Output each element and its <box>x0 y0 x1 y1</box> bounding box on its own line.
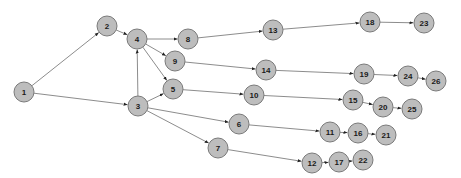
edge-14-to-19 <box>276 70 354 73</box>
edge-3-to-4 <box>137 50 138 97</box>
node-label: 16 <box>354 129 363 138</box>
node-label: 7 <box>216 144 221 153</box>
graph-node-26: 26 <box>426 71 446 91</box>
edge-9-to-14 <box>185 62 256 69</box>
node-label: 4 <box>135 35 140 44</box>
nodes-layer: 1234567891011121314151617181920212223242… <box>14 12 446 173</box>
graph-node-20: 20 <box>373 97 393 117</box>
node-label: 15 <box>349 96 358 105</box>
node-label: 14 <box>262 66 271 75</box>
edge-8-to-13 <box>198 31 263 38</box>
graph-node-24: 24 <box>398 66 418 86</box>
edge-1-to-3 <box>34 93 128 105</box>
node-label: 12 <box>308 159 317 168</box>
node-label: 25 <box>408 105 417 114</box>
node-label: 26 <box>432 77 441 86</box>
node-label: 5 <box>171 85 176 94</box>
node-label: 13 <box>269 26 278 35</box>
edge-3-to-6 <box>148 108 229 122</box>
node-label: 24 <box>404 72 413 81</box>
node-label: 23 <box>420 19 429 28</box>
graph-node-18: 18 <box>360 12 380 32</box>
edge-3-to-5 <box>147 94 164 102</box>
graph-node-6: 6 <box>229 114 249 134</box>
node-label: 3 <box>136 102 141 111</box>
graph-node-14: 14 <box>256 60 276 80</box>
node-label: 17 <box>335 158 344 167</box>
edge-20-to-25 <box>393 108 402 109</box>
node-label: 19 <box>360 70 369 79</box>
node-label: 11 <box>326 128 335 137</box>
node-label: 21 <box>382 131 391 140</box>
node-label: 8 <box>186 35 191 44</box>
edge-4-to-5 <box>143 47 167 80</box>
edge-18-to-23 <box>380 22 414 23</box>
edge-19-to-24 <box>374 75 398 76</box>
edge-5-to-10 <box>183 90 244 95</box>
edge-24-to-26 <box>418 78 426 79</box>
graph-canvas: 1234567891011121314151617181920212223242… <box>0 0 461 178</box>
graph-node-3: 3 <box>128 96 148 116</box>
graph-node-2: 2 <box>97 16 117 36</box>
edge-7-to-12 <box>228 150 302 162</box>
edge-6-to-11 <box>249 125 320 131</box>
graph-node-19: 19 <box>354 64 374 84</box>
node-label: 1 <box>22 88 27 97</box>
graph-node-4: 4 <box>127 29 147 49</box>
graph-node-13: 13 <box>263 20 283 40</box>
graph-node-9: 9 <box>165 51 185 71</box>
graph-node-15: 15 <box>343 90 363 110</box>
node-label: 10 <box>250 91 259 100</box>
node-label: 20 <box>379 103 388 112</box>
graph-node-22: 22 <box>353 150 373 170</box>
graph-node-11: 11 <box>320 122 340 142</box>
graph-node-25: 25 <box>402 99 422 119</box>
node-label: 18 <box>366 18 375 27</box>
edge-4-to-9 <box>146 44 166 56</box>
edge-15-to-20 <box>363 102 373 104</box>
graph-node-12: 12 <box>302 153 322 173</box>
graph-node-21: 21 <box>376 125 396 145</box>
edges-layer <box>32 22 426 162</box>
node-label: 6 <box>237 120 242 129</box>
edge-16-to-21 <box>368 134 376 135</box>
graph-node-17: 17 <box>329 152 349 172</box>
graph-node-16: 16 <box>348 123 368 143</box>
graph-node-1: 1 <box>14 82 34 102</box>
graph-node-8: 8 <box>178 29 198 49</box>
edge-2-to-4 <box>116 30 127 35</box>
edge-13-to-18 <box>283 23 360 29</box>
edge-1-to-2 <box>32 33 99 86</box>
node-label: 9 <box>173 57 178 66</box>
node-label: 22 <box>359 156 368 165</box>
graph-node-23: 23 <box>414 13 434 33</box>
graph-node-5: 5 <box>163 79 183 99</box>
edge-10-to-15 <box>264 96 343 100</box>
graph-node-10: 10 <box>244 85 264 105</box>
node-label: 2 <box>105 22 110 31</box>
edge-3-to-7 <box>147 111 209 144</box>
directed-graph: 1234567891011121314151617181920212223242… <box>0 0 461 178</box>
graph-node-7: 7 <box>208 138 228 158</box>
